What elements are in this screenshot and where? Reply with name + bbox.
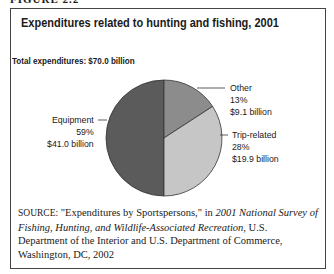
label-trip-amount: $19.9 billion xyxy=(232,153,279,165)
source-text: "Expenditures by Sportspersons," in xyxy=(58,207,215,218)
label-trip-related: Trip-related 28% $19.9 billion xyxy=(232,129,279,165)
source-note: SOURCE: "Expenditures by Sportspersons,"… xyxy=(18,206,318,261)
label-equipment-name: Equipment xyxy=(47,114,94,126)
source-prefix: SOURCE: xyxy=(18,208,58,218)
label-equipment-percent: 59% xyxy=(47,126,94,138)
label-trip-percent: 28% xyxy=(232,141,279,153)
label-other: Other 13% $9.1 billion xyxy=(230,82,272,118)
label-other-percent: 13% xyxy=(230,94,272,106)
label-equipment-amount: $41.0 billion xyxy=(47,138,94,150)
slice-equipment xyxy=(106,80,164,196)
label-trip-name: Trip-related xyxy=(232,129,279,141)
label-equipment: Equipment 59% $41.0 billion xyxy=(47,114,94,150)
label-other-name: Other xyxy=(230,82,272,94)
label-other-amount: $9.1 billion xyxy=(230,106,272,118)
